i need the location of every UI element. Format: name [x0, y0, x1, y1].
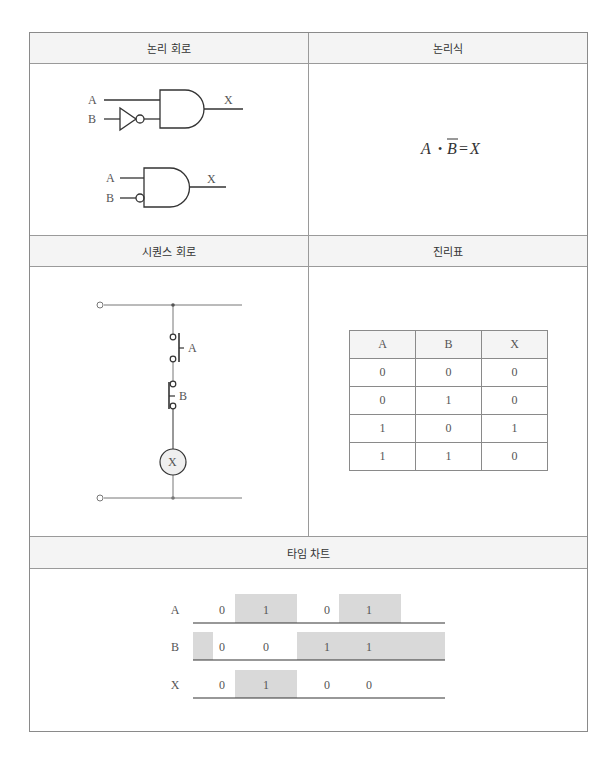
svg-text:1: 1	[366, 640, 372, 654]
timing-label-b: B	[171, 640, 179, 654]
truth-table-header: A B X	[350, 331, 548, 359]
svg-text:0: 0	[219, 640, 225, 654]
and-gate-icon	[144, 168, 190, 207]
gate1-label-b: B	[88, 112, 96, 126]
switch-b-icon	[169, 381, 176, 409]
svg-text:1: 1	[324, 640, 330, 654]
gate2-label-a: A	[106, 171, 115, 185]
table-row: 0 0 0	[350, 359, 548, 387]
timing-label-x: X	[171, 678, 180, 692]
inverter-bubble-icon	[136, 115, 144, 123]
switch-b-label: B	[179, 389, 187, 403]
table-row: 0 1 0	[350, 387, 548, 415]
gate1-label-a: A	[88, 93, 97, 107]
terminal-icon	[97, 495, 103, 501]
truth-table: A B X 0 0 0 0 1 0 1 0 1 1 1 0	[349, 330, 548, 471]
table-row: 1 0 1	[350, 415, 548, 443]
switch-a-icon	[170, 333, 184, 362]
and-gate-icon	[160, 90, 204, 128]
timing-shading	[193, 594, 445, 698]
svg-text:1: 1	[366, 603, 372, 617]
expr-b: B	[447, 140, 457, 157]
gate1-label-x: X	[224, 93, 233, 107]
gate2-label-x: X	[207, 172, 216, 186]
svg-text:1: 1	[263, 678, 269, 692]
svg-text:0: 0	[324, 678, 330, 692]
gate2-label-b: B	[106, 191, 114, 205]
expr-a: A	[420, 140, 431, 157]
svg-text:0: 0	[219, 603, 225, 617]
not-gate-icon	[120, 108, 136, 130]
expr-x: X	[469, 140, 481, 157]
inverted-input-bubble-icon	[136, 194, 144, 202]
expr-dot: •	[438, 142, 442, 156]
svg-text:0: 0	[263, 640, 269, 654]
coil-label: X	[168, 455, 177, 469]
terminal-icon	[97, 302, 103, 308]
timing-label-a: A	[171, 603, 180, 617]
expr-eq: =	[459, 140, 468, 157]
svg-text:0: 0	[324, 603, 330, 617]
table-row: 1 1 0	[350, 443, 548, 471]
svg-text:0: 0	[366, 678, 372, 692]
switch-a-label: A	[188, 341, 197, 355]
svg-text:1: 1	[263, 603, 269, 617]
svg-text:0: 0	[219, 678, 225, 692]
